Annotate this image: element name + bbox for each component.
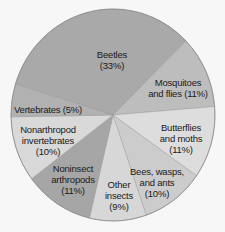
slice-label-line: Bees, wasps, [130, 166, 184, 177]
slice-label-other-insects: Otherinsects(9%) [105, 179, 133, 212]
slice-label-line: (11%) [51, 185, 94, 196]
slice-label-line: Butterflies [160, 122, 203, 133]
slice-label-line: and flies (11%) [148, 88, 208, 99]
slice-label-noninsect-arthropods: Noninsectarthropods(11%) [51, 163, 94, 196]
slice-label-line: and moths [160, 133, 203, 144]
slice-label-line: Vertebrates (5%) [14, 104, 82, 115]
slice-label-line: Noninsect [51, 163, 94, 174]
slice-label-beetles: Beetles(33%) [97, 49, 127, 71]
slice-label-line: Other [105, 179, 133, 190]
slice-label-line: (10%) [130, 188, 184, 199]
slice-label-line: (9%) [105, 201, 133, 212]
slice-label-line: (11%) [160, 144, 203, 155]
slice-label-line: (33%) [97, 60, 127, 71]
slice-label-line: (10%) [20, 146, 76, 157]
slice-label-line: invertebrates [20, 135, 76, 146]
slice-label-butterflies-and-moths: Butterfliesand moths(11%) [160, 122, 203, 155]
slice-label-nonarthropod-invertebrates: Nonarthropodinvertebrates(10%) [20, 124, 76, 157]
slice-label-line: Mosquitoes [148, 77, 208, 88]
slice-label-line: Beetles [97, 49, 127, 60]
slice-label-mosquitoes-and-flies: Mosquitoesand flies (11%) [148, 77, 208, 99]
slice-label-bees-wasps-and-ants: Bees, wasps,and ants(10%) [130, 166, 184, 199]
slice-label-line: Nonarthropod [20, 124, 76, 135]
slice-label-vertebrates: Vertebrates (5%) [14, 104, 82, 115]
slice-label-line: arthropods [51, 174, 94, 185]
slice-label-line: insects [105, 190, 133, 201]
slice-label-line: and ants [130, 177, 184, 188]
